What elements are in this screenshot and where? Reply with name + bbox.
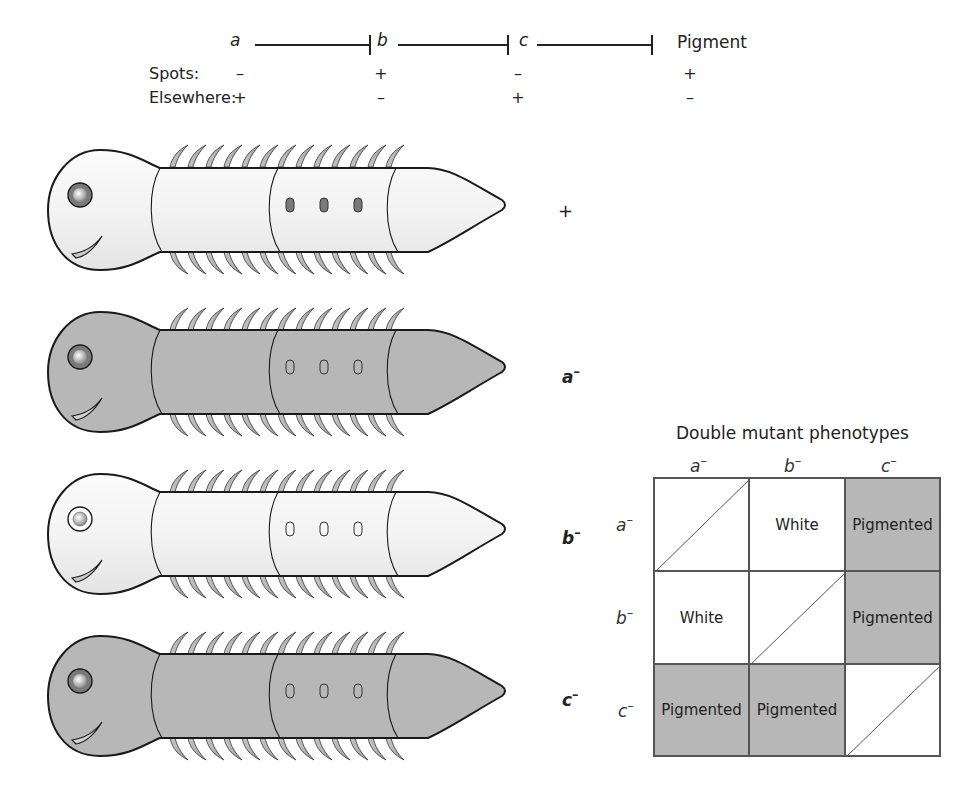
spot-icon (286, 198, 294, 212)
spots-sign-c: – (511, 64, 525, 83)
spots-row-label: Spots: (149, 64, 199, 83)
spot-icon (354, 522, 362, 536)
row-header-c: c– (618, 698, 634, 721)
inhibition-bar-icon (507, 35, 509, 55)
spots-sign-b: + (374, 64, 388, 83)
spot-icon (286, 360, 294, 374)
worm-label-a-mutant: a– (562, 364, 580, 387)
cell-b-a: White (654, 571, 749, 664)
inhibition-arrow-c-pigment (537, 44, 652, 46)
spots-sign-pigment: + (683, 64, 697, 83)
spot-icon (320, 360, 328, 374)
cell-a-c: Pigmented (845, 478, 940, 571)
row-header-b: b– (616, 605, 633, 628)
elsewhere-sign-c: + (511, 88, 525, 107)
worm-b-mutant: b– (30, 450, 590, 610)
column-header-b: b– (784, 453, 801, 476)
inhibition-bar-icon (369, 35, 371, 55)
elsewhere-sign-pigment: – (683, 88, 697, 107)
cell-a-a (654, 478, 749, 571)
cell-b-b (749, 571, 845, 664)
worm-label-wild-type: + (558, 200, 573, 221)
spot-icon (354, 360, 362, 374)
table-title: Double mutant phenotypes (676, 423, 909, 443)
worm-wild-type: + (30, 130, 590, 290)
worm-label-c-mutant: c– (562, 687, 579, 710)
inhibition-bar-icon (651, 35, 653, 55)
spot-icon (354, 684, 362, 698)
column-header-a: a– (690, 453, 707, 476)
inhibition-arrow-a-b (255, 44, 370, 46)
worm-a-mutant: a– (30, 290, 590, 450)
column-header-c: c– (881, 453, 897, 476)
phenotype-grid: White Pigmented White Pigmented Pigmente… (653, 477, 941, 757)
cell-b-c: Pigmented (845, 571, 940, 664)
inhibition-arrow-b-c (398, 44, 508, 46)
row-header-a: a– (616, 512, 633, 535)
elsewhere-sign-a: + (233, 88, 247, 107)
spots-sign-a: – (233, 64, 247, 83)
pigment-label: Pigment (677, 32, 747, 52)
elsewhere-row-label: Elsewhere: (149, 88, 236, 107)
spot-icon (354, 198, 362, 212)
gene-a-label: a (230, 30, 240, 50)
gene-c-label: c (519, 30, 528, 50)
spot-icon (320, 684, 328, 698)
cell-a-b: White (749, 478, 845, 571)
cell-c-a: Pigmented (654, 664, 749, 756)
worm-c-mutant: c– (30, 612, 590, 782)
gene-b-label: b (377, 30, 388, 50)
spot-icon (320, 198, 328, 212)
cell-c-c (845, 664, 940, 756)
elsewhere-sign-b: – (374, 88, 388, 107)
spot-icon (286, 684, 294, 698)
spot-icon (286, 522, 294, 536)
spot-icon (320, 522, 328, 536)
cell-c-b: Pigmented (749, 664, 845, 756)
worm-label-b-mutant: b– (562, 525, 581, 548)
